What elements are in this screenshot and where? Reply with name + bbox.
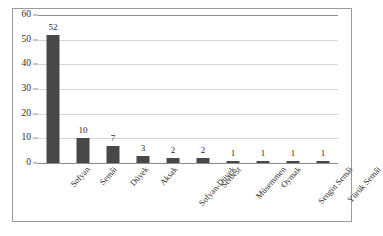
bar-value-label: 2	[201, 146, 206, 155]
bar-value-label: 1	[261, 149, 266, 158]
bar[interactable]	[197, 158, 210, 163]
x-axis-category-labels: SofyanSemâiDüyekAksakSofyan-DüyekSerbest…	[38, 165, 338, 221]
x-category-label: Aksak	[158, 165, 179, 187]
y-tick-label: 20	[22, 109, 32, 119]
bar-value-label: 10	[79, 126, 88, 135]
bar[interactable]	[287, 161, 300, 163]
plot-area-wrapper: 0102030405060 521073221111	[38, 15, 338, 163]
bar-slot: 10	[68, 15, 98, 163]
bar-value-label: 2	[171, 146, 176, 155]
bar-slot: 1	[308, 15, 338, 163]
bar-slot: 1	[218, 15, 248, 163]
bar-slot: 7	[98, 15, 128, 163]
bar-value-label: 1	[321, 149, 326, 158]
bar-slot: 2	[188, 15, 218, 163]
bar[interactable]	[257, 161, 270, 163]
bar[interactable]	[317, 161, 330, 163]
bar-slot: 52	[38, 15, 68, 163]
bar-value-label: 1	[291, 149, 296, 158]
bar-slot: 1	[248, 15, 278, 163]
y-tick-label: 30	[22, 84, 32, 94]
bar-slot: 1	[278, 15, 308, 163]
bar[interactable]	[107, 146, 120, 163]
bar[interactable]	[167, 158, 180, 163]
x-category-label: Semâi	[98, 165, 119, 186]
bar[interactable]	[77, 138, 90, 163]
bar-value-label: 1	[231, 149, 236, 158]
bar-series: 521073221111	[38, 15, 338, 163]
y-tick-label: 60	[22, 10, 32, 20]
bar-value-label: 7	[111, 134, 116, 143]
y-tick-label: 0	[26, 158, 31, 168]
bar-value-label: 52	[49, 23, 58, 32]
x-category-label: Sofyan	[69, 165, 91, 189]
y-tick-label: 50	[22, 35, 32, 45]
bar[interactable]	[137, 156, 150, 163]
x-category-label: Serbest	[219, 165, 242, 189]
y-tick-label: 10	[22, 134, 32, 144]
bar-value-label: 3	[141, 144, 146, 153]
y-tick-label: 40	[22, 60, 32, 70]
bar-slot: 3	[128, 15, 158, 163]
bar[interactable]	[227, 161, 240, 163]
x-category-label: Düyek	[129, 165, 150, 188]
bar[interactable]	[47, 35, 60, 163]
bar-slot: 2	[158, 15, 188, 163]
